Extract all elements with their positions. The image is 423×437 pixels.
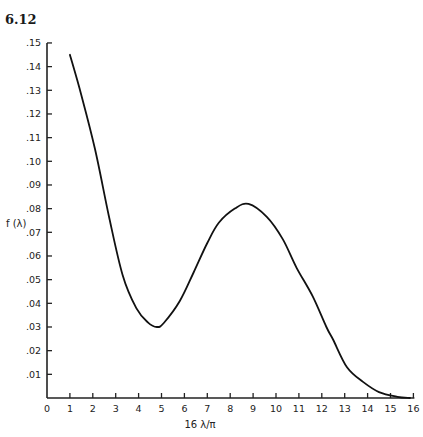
y-tick-label: .12 (26, 108, 41, 119)
x-tick-label: 14 (362, 403, 374, 414)
y-axis-label: f (λ) (6, 218, 27, 229)
x-tick-label: 16 (407, 403, 419, 414)
y-tick-label: .03 (26, 321, 41, 332)
line-chart: .01.02.03.04.05.06.07.08.09.10.11.12.13.… (0, 0, 423, 437)
x-tick-label: 1 (67, 403, 73, 414)
x-axis-label: 16 λ/π (184, 419, 215, 430)
axes (47, 43, 414, 398)
x-tick-label: 6 (181, 403, 187, 414)
y-tick-label: .04 (26, 298, 41, 309)
y-tick-label: .07 (26, 227, 41, 238)
data-curve (70, 55, 410, 398)
y-tick-label: .10 (26, 156, 41, 167)
x-tick-label: 7 (204, 403, 210, 414)
x-tick-label: 12 (316, 403, 328, 414)
x-tick-label: 4 (136, 403, 142, 414)
x-tick-label: 2 (90, 403, 96, 414)
y-tick-label: .09 (26, 179, 41, 190)
y-tick-label: .15 (26, 37, 41, 48)
x-tick-label: 15 (384, 403, 396, 414)
x-tick-label: 3 (113, 403, 119, 414)
y-tick-label: .06 (26, 250, 41, 261)
y-tick-label: .13 (26, 85, 41, 96)
x-tick-label: 13 (339, 403, 351, 414)
x-tick-label: 11 (293, 403, 305, 414)
x-tick-label: 0 (44, 403, 50, 414)
x-tick-label: 9 (250, 403, 256, 414)
x-tick-label: 10 (270, 403, 282, 414)
y-tick-label: .11 (26, 132, 41, 143)
x-tick-label: 8 (227, 403, 233, 414)
y-tick-label: .01 (26, 369, 41, 380)
y-tick-label: .02 (26, 345, 41, 356)
x-tick-label: 5 (158, 403, 164, 414)
y-axis-ticks: .01.02.03.04.05.06.07.08.09.10.11.12.13.… (26, 37, 52, 379)
x-axis-ticks: 012345678910111213141516 (44, 393, 419, 414)
y-tick-label: .14 (26, 61, 41, 72)
y-tick-label: .05 (26, 274, 41, 285)
y-tick-label: .08 (26, 203, 41, 214)
